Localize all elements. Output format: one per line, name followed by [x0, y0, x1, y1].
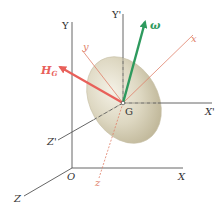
translating-x-label: X' [204, 106, 215, 117]
fixed-z-label: Z [13, 193, 22, 204]
body-z-label: z [94, 177, 101, 188]
fixed-x-label: X [177, 171, 186, 182]
fixed-z-axis [24, 168, 72, 196]
angular-momentum-label: HG [40, 64, 57, 78]
rigid-body-diagram: Y X Z O Y' X' Z' x y z G HG ω [0, 0, 223, 212]
translating-z-label: Z' [46, 136, 57, 147]
angular-velocity-label: ω [150, 19, 161, 32]
origin-label: O [67, 171, 75, 182]
center-of-mass-point [121, 101, 125, 105]
center-of-mass-label: G [125, 106, 133, 117]
fixed-y-label: Y [61, 20, 69, 31]
body-y-label: y [82, 41, 89, 52]
translating-y-label: Y' [111, 9, 121, 20]
body-x-label: x [191, 33, 197, 44]
